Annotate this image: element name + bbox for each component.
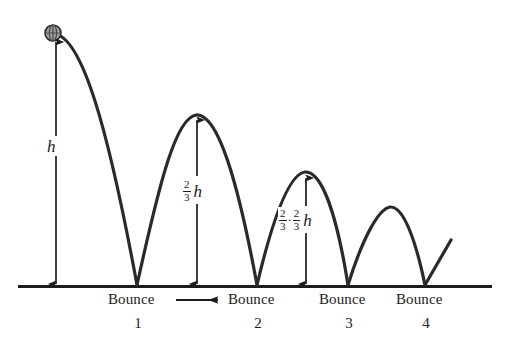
trajectory-path — [54, 34, 451, 285]
bounce-label-2-word: Bounce — [228, 292, 274, 307]
bounce-label-1-word: Bounce — [108, 292, 154, 307]
multiplication-dot: · — [287, 213, 293, 226]
height-label-h: h — [47, 138, 56, 155]
ball-icon — [44, 24, 62, 42]
fraction-numerator: 2 — [279, 208, 287, 220]
bounce-label-4-word: Bounce — [396, 292, 442, 307]
bounce-label-1-number: 1 — [133, 316, 143, 331]
bounce-label-3-number: 3 — [344, 316, 354, 331]
fraction-two-thirds-second: 2 3 — [293, 208, 301, 232]
height-label-two-thirds-squared-h: 2 3 · 2 3 h — [278, 207, 313, 233]
fraction-two-thirds-first: 2 3 — [279, 208, 287, 232]
height-label-two-thirds-h: 2 3 h — [182, 178, 203, 204]
bounce-label-3-word: Bounce — [319, 292, 365, 307]
bounce-label-4-number: 4 — [421, 316, 431, 331]
variable-h: h — [191, 183, 203, 200]
fraction-two-thirds: 2 3 — [183, 179, 191, 203]
fraction-numerator: 2 — [183, 179, 191, 191]
bouncing-ball-figure: h 2 3 h 2 3 · 2 3 h Bounce 1 Bounce 2 Bo… — [0, 0, 512, 349]
fraction-numerator: 2 — [293, 208, 301, 220]
fraction-denominator: 3 — [183, 191, 191, 204]
variable-h: h — [300, 212, 312, 229]
bounce-label-2-number: 2 — [253, 316, 263, 331]
fraction-denominator: 3 — [293, 220, 301, 233]
fraction-denominator: 3 — [279, 220, 287, 233]
